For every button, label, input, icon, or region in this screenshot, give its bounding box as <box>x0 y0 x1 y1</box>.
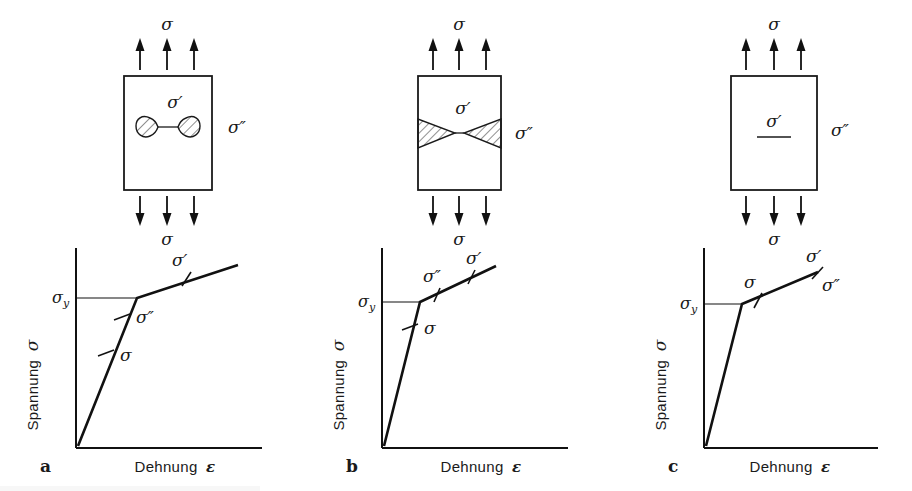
top-load-label: σ <box>768 14 780 34</box>
panel-letter-c: c <box>668 456 678 476</box>
marker-label-sigma-double-prime: σ″ <box>423 266 442 286</box>
inner-stress-label: σ′ <box>167 92 183 112</box>
marker-label-sigma-double-prime: σ″ <box>822 275 841 295</box>
panel-letter-b: b <box>346 456 358 476</box>
marker-label-sigma-prime: σ′ <box>806 246 822 266</box>
marker-label-sigma-prime: σ′ <box>172 250 188 270</box>
marker-label-sigma-prime: σ′ <box>466 248 482 268</box>
side-stress-label: σ″ <box>228 117 247 137</box>
bottom-load-label: σ <box>768 229 780 249</box>
side-stress-label: σ″ <box>515 123 534 143</box>
top-load-label: σ <box>161 14 173 34</box>
marker-label-sigma: σ <box>120 345 132 365</box>
inner-stress-label: σ′ <box>766 111 782 131</box>
top-load-label: σ <box>453 14 465 34</box>
bottom-load-label: σ <box>453 229 465 249</box>
marker-label-sigma: σ <box>424 318 436 338</box>
inner-stress-label: σ′ <box>455 98 471 118</box>
panel-letter-a: a <box>40 456 51 476</box>
bottom-load-label: σ <box>161 229 173 249</box>
marker-label-sigma: σ <box>744 272 756 292</box>
marker-label-sigma-double-prime: σ″ <box>136 307 155 327</box>
figure-root: σ σ σ′ σ″ σy σ <box>0 0 912 491</box>
specimen-rect <box>731 76 817 190</box>
scan-artifact <box>0 486 260 491</box>
side-stress-label: σ″ <box>831 120 850 140</box>
